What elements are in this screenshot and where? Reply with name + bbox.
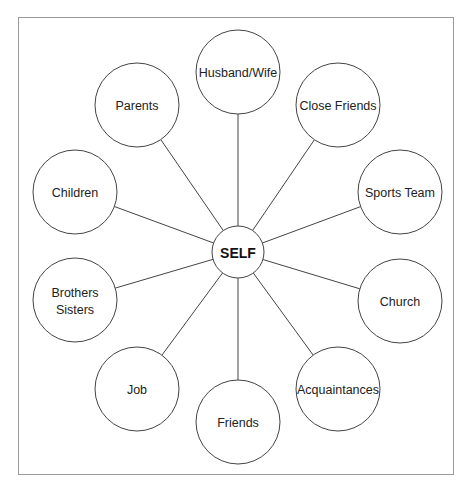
node-husband-wife: Husband/Wife — [196, 30, 280, 114]
self-label: SELF — [220, 245, 256, 261]
node-close-friends: Close Friends — [296, 63, 380, 147]
node-parents: Parents — [95, 63, 179, 147]
node-label: Church — [380, 295, 420, 309]
connector-line-acquaintances — [253, 273, 313, 355]
connector-line-parents — [161, 140, 224, 231]
node-acquaintances: Acquaintances — [296, 347, 380, 431]
node-label: Sisters — [56, 303, 94, 317]
connector-line-close-friends — [253, 140, 315, 231]
node-job: Job — [95, 347, 179, 431]
node-label: Acquaintances — [297, 383, 379, 397]
node-label: Close Friends — [299, 99, 376, 113]
connector-line-brothers-sisters — [115, 259, 213, 288]
node-circle — [33, 258, 117, 342]
connector-line-church — [263, 260, 360, 289]
node-children: Children — [33, 150, 117, 234]
social-network-diagram: Husband/WifeClose FriendsSports TeamChur… — [0, 0, 472, 494]
node-label: Sports Team — [365, 186, 435, 200]
node-friends: Friends — [196, 380, 280, 464]
connector-line-job — [162, 273, 223, 355]
node-sports-team: Sports Team — [358, 150, 442, 234]
node-label: Husband/Wife — [199, 66, 278, 80]
node-label: Friends — [217, 416, 259, 430]
node-label: Parents — [115, 99, 158, 113]
node-label: Children — [52, 186, 99, 200]
connector-line-children — [114, 207, 213, 244]
node-church: Church — [358, 259, 442, 343]
node-label: Brothers — [51, 286, 98, 300]
connector-line-sports-team — [262, 207, 360, 243]
self-node: SELF — [212, 226, 264, 278]
node-brothers-sisters: BrothersSisters — [33, 258, 117, 342]
node-label: Job — [127, 383, 147, 397]
